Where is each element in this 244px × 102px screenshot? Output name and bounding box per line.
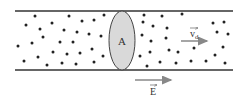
charge-dot <box>168 49 171 52</box>
charge-dot <box>31 42 34 45</box>
charge-dot <box>75 63 78 66</box>
charge-dot <box>146 65 149 68</box>
charge-dot <box>39 28 42 31</box>
charge-dot <box>159 61 162 64</box>
charge-dot <box>222 46 225 49</box>
drift-velocity-label: vd <box>190 28 199 41</box>
charge-dot <box>52 51 55 54</box>
charge-dot <box>79 52 82 55</box>
charge-dot <box>150 40 153 43</box>
charge-dot <box>177 51 180 54</box>
charge-dot <box>193 47 196 50</box>
charge-dot <box>223 21 226 24</box>
charge-dot <box>23 60 26 63</box>
charge-dot <box>63 29 66 32</box>
charge-dot <box>161 15 164 18</box>
charge-dot <box>37 56 40 59</box>
charge-dot <box>224 62 227 65</box>
charge-dot <box>149 51 152 54</box>
charge-dot <box>212 22 215 25</box>
charge-dot <box>175 62 178 65</box>
charge-dot <box>91 48 94 51</box>
charge-dot <box>59 41 62 44</box>
charge-dot <box>214 54 217 57</box>
charge-dot <box>205 60 208 63</box>
charge-dot <box>166 27 169 30</box>
conductor-diagram: A vd E <box>0 0 244 102</box>
charge-dot <box>142 21 145 24</box>
charge-dot <box>51 22 54 25</box>
charge-dot <box>93 61 96 64</box>
charge-dot <box>17 45 20 48</box>
charge-dot <box>216 31 219 34</box>
charge-dot <box>76 31 79 34</box>
charge-dot <box>181 13 184 16</box>
charge-dot <box>81 20 84 23</box>
charge-dot <box>61 62 64 65</box>
charge-dot <box>46 64 49 67</box>
cross-section-label: A <box>118 35 126 47</box>
charge-dot <box>25 24 28 27</box>
charge-dot <box>88 33 91 36</box>
charge-dot <box>34 15 37 18</box>
charge-dot <box>152 25 155 28</box>
charge-dot <box>93 19 96 22</box>
charge-dot <box>100 35 103 38</box>
charge-dot <box>165 37 168 40</box>
charge-dot <box>102 55 105 58</box>
charge-dot <box>190 60 193 63</box>
charge-dot <box>141 34 144 37</box>
charge-dot <box>72 41 75 44</box>
charge-dot <box>227 33 230 36</box>
charge-dot <box>66 53 69 56</box>
charge-dot <box>68 15 71 18</box>
charge-dot <box>143 14 146 17</box>
electric-field-label: E <box>150 86 156 97</box>
charge-dot <box>103 14 106 17</box>
charge-dot <box>42 36 45 39</box>
charge-dot <box>139 55 142 58</box>
